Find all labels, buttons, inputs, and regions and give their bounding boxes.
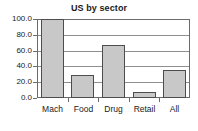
bar-mach: [41, 19, 64, 98]
bar-retail: [133, 92, 156, 98]
bar-chart: US by sector 100.080.060.040.020.00.0Mac…: [0, 0, 198, 131]
y-axis-tick-label: 0.0: [0, 94, 32, 102]
y-axis-tick-label: 40.0: [0, 62, 32, 70]
x-axis-tick-label-mach: Mach: [37, 104, 68, 114]
x-axis-tick-mark: [129, 98, 130, 102]
y-axis-tick-mark: [33, 82, 37, 83]
y-axis-tick-label: 60.0: [0, 47, 32, 55]
y-axis-tick-mark: [33, 98, 37, 99]
x-axis-tick-label-retail: Retail: [129, 104, 160, 114]
x-axis-tick-label-all: All: [159, 104, 190, 114]
x-axis-tick-mark: [68, 98, 69, 102]
bars-layer: [37, 19, 190, 98]
y-axis-tick-label: 20.0: [0, 78, 32, 86]
x-axis-tick-label-food: Food: [68, 104, 99, 114]
bar-drug: [102, 45, 125, 98]
bar-food: [71, 75, 94, 98]
x-axis-tick-mark: [159, 98, 160, 102]
chart-title: US by sector: [0, 3, 198, 14]
y-axis-tick-mark: [33, 51, 37, 52]
y-axis-tick-mark: [33, 19, 37, 20]
x-axis-tick-label-drug: Drug: [98, 104, 129, 114]
y-axis-tick-mark: [33, 35, 37, 36]
y-axis-tick-label: 100.0: [0, 15, 32, 23]
x-axis-tick-mark: [98, 98, 99, 102]
y-axis-tick-mark: [33, 66, 37, 67]
bar-all: [163, 70, 186, 98]
y-axis-tick-label: 80.0: [0, 31, 32, 39]
